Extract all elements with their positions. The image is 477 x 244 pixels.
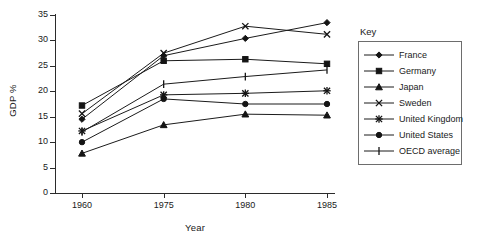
- series-line: [82, 99, 327, 142]
- plot-area: 05101520253035 1960197519801985 GDP % Ye…: [0, 0, 345, 244]
- legend-item-label: United Kingdom: [399, 114, 463, 125]
- legend-item-label: Sweden: [399, 98, 432, 109]
- legend-item[interactable]: United States: [362, 127, 457, 143]
- legend-item-label: France: [399, 50, 427, 61]
- series-line: [82, 59, 327, 105]
- series-line: [82, 114, 327, 153]
- legend-item[interactable]: Sweden: [362, 95, 457, 111]
- legend-marker-circle-icon: [362, 128, 396, 142]
- legend-marker-plus-icon: [362, 144, 396, 158]
- series-united-kingdom: [78, 87, 330, 135]
- legend-marker-star-icon: [362, 112, 396, 126]
- series-germany: [79, 57, 329, 109]
- legend-item-label: Germany: [399, 66, 436, 77]
- legend-item-label: OECD average: [399, 146, 460, 157]
- series-plot: [0, 0, 345, 244]
- legend: Key FranceGermanyJapanSwedenUnited Kingd…: [358, 26, 471, 165]
- chart-root: 05101520253035 1960197519801985 GDP % Ye…: [0, 0, 477, 244]
- legend-item[interactable]: France: [362, 47, 457, 63]
- legend-item-label: Japan: [399, 82, 424, 93]
- series-line: [82, 26, 327, 113]
- legend-item[interactable]: Germany: [362, 63, 457, 79]
- legend-marker-diamond-icon: [362, 48, 396, 62]
- legend-box: FranceGermanyJapanSwedenUnited KingdomUn…: [358, 41, 462, 165]
- legend-marker-square-icon: [362, 64, 396, 78]
- series-line: [82, 23, 327, 120]
- legend-item-label: United States: [399, 130, 453, 141]
- legend-marker-triangle-icon: [362, 80, 396, 94]
- legend-marker-cross-icon: [362, 96, 396, 110]
- series-japan: [79, 111, 331, 156]
- series-united-states: [79, 96, 329, 145]
- legend-item[interactable]: Japan: [362, 79, 457, 95]
- series-france: [79, 20, 330, 123]
- series-oecd-average: [82, 66, 327, 136]
- legend-item[interactable]: United Kingdom: [362, 111, 457, 127]
- legend-item[interactable]: OECD average: [362, 143, 457, 159]
- series-sweden: [79, 23, 330, 117]
- legend-title: Key: [360, 26, 471, 37]
